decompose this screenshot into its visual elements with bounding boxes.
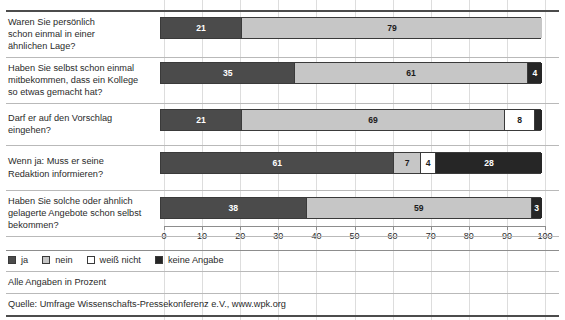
bar-segment-nein: 7 bbox=[393, 153, 420, 173]
x-tick bbox=[393, 226, 394, 230]
legend-swatch-weiss bbox=[87, 256, 95, 264]
bar-segment-ja: 21 bbox=[161, 110, 241, 130]
bar-segment-ja: 35 bbox=[161, 63, 294, 83]
x-tick bbox=[355, 226, 356, 230]
bar-track: 2179 bbox=[160, 11, 565, 57]
legend: janeinweiß nichtkeine Angabe bbox=[8, 255, 238, 265]
bar-segment-keine: 4 bbox=[527, 63, 542, 83]
segment-value-label: 61 bbox=[272, 158, 282, 168]
x-tick bbox=[316, 226, 317, 230]
segment-value-label: 21 bbox=[196, 23, 206, 33]
x-tick bbox=[240, 226, 241, 230]
legend-swatch-ja bbox=[8, 256, 16, 264]
segment-value-label: 21 bbox=[196, 115, 206, 125]
row-label-line: schon einmal in einer bbox=[8, 28, 154, 40]
bar-segment-weiss: 4 bbox=[420, 153, 435, 173]
legend-item: nein bbox=[42, 255, 72, 265]
stacked-bar: 617428 bbox=[160, 152, 541, 174]
legend-label: weiß nicht bbox=[100, 255, 141, 265]
note-divider bbox=[6, 293, 559, 294]
units-note: Alle Angaben in Prozent bbox=[8, 277, 106, 287]
x-tick bbox=[545, 226, 546, 230]
source-note: Quelle: Umfrage Wissenschafts-Pressekonf… bbox=[8, 299, 286, 309]
legend-swatch-nein bbox=[42, 256, 50, 264]
segment-value-label: 38 bbox=[229, 203, 239, 213]
x-tick bbox=[202, 226, 203, 230]
stacked-bar: 21698 bbox=[160, 109, 541, 131]
chart-row: Waren Sie persönlichschon einmal in eine… bbox=[0, 11, 565, 57]
row-label: Wenn ja: Muss er seineRedaktion informie… bbox=[0, 155, 160, 179]
bottom-divider bbox=[6, 315, 559, 317]
segment-value-label: 28 bbox=[484, 158, 494, 168]
row-label: Haben Sie selbst schon einmalmitbekommen… bbox=[0, 62, 160, 99]
row-divider bbox=[6, 190, 559, 191]
legend-label: nein bbox=[55, 255, 72, 265]
legend-bottom-divider bbox=[6, 271, 559, 272]
x-tick bbox=[164, 226, 165, 230]
segment-value-label: 4 bbox=[426, 158, 431, 168]
row-divider bbox=[6, 145, 559, 146]
bar-segment-ja: 61 bbox=[161, 153, 393, 173]
row-label: Darf er auf den Vorschlag eingehen? bbox=[0, 112, 160, 136]
bar-segment-nein: 79 bbox=[241, 18, 542, 38]
bar-segment-ja: 21 bbox=[161, 18, 241, 38]
segment-value-label: 61 bbox=[406, 68, 416, 78]
row-label-line: so etwas gemacht hat? bbox=[8, 86, 154, 98]
row-label-line: ähnlichen Lage? bbox=[8, 40, 154, 52]
segment-value-label: 4 bbox=[532, 68, 537, 78]
survey-stacked-bar-chart: Waren Sie persönlichschon einmal in eine… bbox=[0, 0, 565, 320]
bar-segment-keine bbox=[534, 110, 542, 130]
segment-value-label: 8 bbox=[517, 115, 522, 125]
chart-row: Wenn ja: Muss er seineRedaktion informie… bbox=[0, 145, 565, 190]
row-label-line: Haben Sie selbst schon einmal bbox=[8, 62, 154, 74]
segment-value-label: 69 bbox=[368, 115, 378, 125]
row-label-line: Haben Sie solche oder ähnlich bbox=[8, 195, 154, 207]
row-label-line: Darf er auf den Vorschlag eingehen? bbox=[8, 112, 154, 136]
segment-value-label: 59 bbox=[414, 203, 424, 213]
stacked-bar: 35614 bbox=[160, 62, 541, 84]
chart-row: Darf er auf den Vorschlag eingehen?21698 bbox=[0, 103, 565, 145]
legend-item: keine Angabe bbox=[155, 255, 224, 265]
row-label-line: Waren Sie persönlich bbox=[8, 16, 154, 28]
segment-value-label: 35 bbox=[223, 68, 233, 78]
bar-segment-weiss: 8 bbox=[504, 110, 534, 130]
x-tick bbox=[507, 226, 508, 230]
row-divider bbox=[6, 103, 559, 104]
bar-track: 617428 bbox=[160, 145, 565, 190]
bar-segment-nein: 69 bbox=[241, 110, 504, 130]
bar-segment-nein: 59 bbox=[306, 198, 531, 218]
row-label-line: mitbekommen, dass ein Kollege bbox=[8, 74, 154, 86]
legend-item: ja bbox=[8, 255, 28, 265]
segment-value-label: 7 bbox=[405, 158, 410, 168]
bar-track: 21698 bbox=[160, 103, 565, 145]
bar-segment-keine: 3 bbox=[531, 198, 542, 218]
row-label: Waren Sie persönlichschon einmal in eine… bbox=[0, 16, 160, 53]
legend-top-divider bbox=[6, 250, 559, 251]
chart-row: Haben Sie selbst schon einmalmitbekommen… bbox=[0, 57, 565, 103]
legend-label: keine Angabe bbox=[168, 255, 224, 265]
x-tick bbox=[469, 226, 470, 230]
bar-segment-nein: 61 bbox=[294, 63, 526, 83]
legend-item: weiß nicht bbox=[87, 255, 141, 265]
x-axis: 0102030405060708090100 bbox=[0, 226, 565, 248]
row-divider bbox=[6, 236, 559, 237]
row-label-line: Redaktion informieren? bbox=[8, 168, 154, 180]
row-label-line: Wenn ja: Muss er seine bbox=[8, 155, 154, 167]
stacked-bar: 38593 bbox=[160, 197, 541, 219]
segment-value-label: 3 bbox=[534, 203, 539, 213]
bar-segment-ja: 38 bbox=[161, 198, 306, 218]
bar-segment-keine: 28 bbox=[435, 153, 542, 173]
bar-track: 35614 bbox=[160, 57, 565, 103]
x-tick bbox=[431, 226, 432, 230]
row-label-line: gelagerte Angebote schon selbst bbox=[8, 207, 154, 219]
legend-label: ja bbox=[21, 255, 28, 265]
x-tick bbox=[278, 226, 279, 230]
stacked-bar: 2179 bbox=[160, 17, 541, 39]
legend-swatch-keine bbox=[155, 256, 163, 264]
segment-value-label: 79 bbox=[387, 23, 397, 33]
row-divider bbox=[6, 57, 559, 58]
